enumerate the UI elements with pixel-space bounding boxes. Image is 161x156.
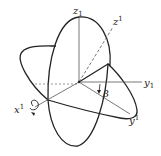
label-y1: y1 xyxy=(143,77,154,90)
origin-dot xyxy=(78,81,80,83)
label-z1: z1 xyxy=(72,5,83,18)
rotation-arrow-icon xyxy=(30,100,38,110)
label-y-prime: y1 xyxy=(128,114,139,126)
label-x-prime: x1 xyxy=(14,103,24,115)
lower-ellipse xyxy=(48,100,100,122)
rotation-arrowhead-icon xyxy=(31,112,35,116)
label-z-prime: z1 xyxy=(112,15,123,27)
rotation-diagram: z1 z1 y1 y1 x1 β xyxy=(0,0,161,156)
upper-edge xyxy=(79,64,108,82)
label-beta: β xyxy=(102,88,109,99)
